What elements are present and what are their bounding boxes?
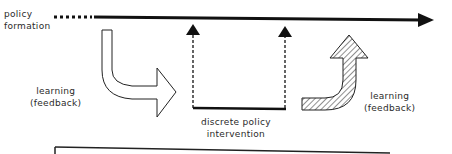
intervention-line2: intervention bbox=[201, 128, 271, 140]
right-learning-label: learning (feedback) bbox=[364, 90, 415, 114]
right-learning-line1: learning bbox=[364, 90, 415, 102]
policy-diagram: policy formation learning (feedback) dis… bbox=[0, 0, 452, 154]
right-learning-line2: (feedback) bbox=[364, 102, 415, 114]
intervention-line1: discrete policy bbox=[201, 116, 271, 128]
bottom-bracket bbox=[55, 147, 390, 154]
right-feedback-arrow-icon bbox=[302, 35, 368, 110]
policy-formation-line1: policy bbox=[4, 8, 50, 20]
policy-timeline-arrow bbox=[54, 13, 434, 27]
intervention-left-arrow bbox=[186, 24, 200, 108]
intervention-base-line bbox=[193, 108, 286, 109]
intervention-right-arrow bbox=[278, 26, 292, 108]
policy-formation-label: policy formation bbox=[4, 8, 50, 32]
intervention-label: discrete policy intervention bbox=[201, 116, 271, 140]
left-feedback-arrow-icon bbox=[102, 30, 176, 117]
left-learning-line1: learning bbox=[30, 85, 81, 97]
policy-formation-line2: formation bbox=[4, 20, 50, 32]
left-learning-label: learning (feedback) bbox=[30, 85, 81, 109]
left-learning-line2: (feedback) bbox=[30, 97, 81, 109]
